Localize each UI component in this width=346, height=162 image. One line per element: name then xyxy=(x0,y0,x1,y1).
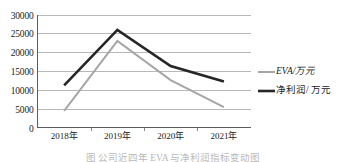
figure-caption: 图 公司近四年 EVA 与净利润指标变动图 xyxy=(0,152,346,162)
y-axis-tick-label: 0 xyxy=(29,124,34,134)
y-axis-tick-label: 10000 xyxy=(11,86,34,96)
y-axis-tick-label: 15000 xyxy=(11,67,34,77)
legend-label-net-profit: 净利润/ 万元 xyxy=(276,84,331,95)
legend-label-eva: EVA/万元 xyxy=(275,66,316,76)
x-axis-tick-label: 2020年 xyxy=(157,130,184,141)
y-axis-tick-label: 20000 xyxy=(11,48,34,58)
x-axis-tick-label: 2018年 xyxy=(51,130,78,141)
y-axis-tick-label: 5000 xyxy=(15,105,34,115)
x-axis-tick-label: 2021年 xyxy=(210,130,237,141)
x-axis-tick-label: 2019年 xyxy=(104,130,131,141)
y-axis-tick-label: 30000 xyxy=(11,11,34,21)
line-chart: 050001000015000200002500030000 2018年2019… xyxy=(0,0,346,162)
y-axis-tick-label: 25000 xyxy=(11,29,34,39)
figure-container: 050001000015000200002500030000 2018年2019… xyxy=(0,0,346,162)
